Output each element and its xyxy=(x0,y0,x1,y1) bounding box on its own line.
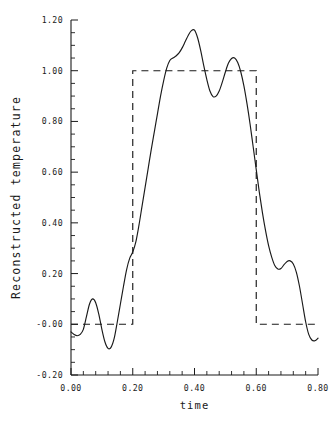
y-tick-label: -0.20 xyxy=(36,370,63,380)
y-tick-label: 0.80 xyxy=(42,116,63,126)
x-tick-label: 0.00 xyxy=(60,383,81,393)
y-tick-label: -0.00 xyxy=(36,319,63,329)
x-tick-label: 0.20 xyxy=(122,383,143,393)
y-tick-labels: -0.20-0.000.200.400.600.801.001.20 xyxy=(36,15,63,380)
axis-ticks-group xyxy=(71,20,318,375)
y-tick-label: 0.20 xyxy=(42,269,63,279)
x-tick-label: 0.60 xyxy=(246,383,267,393)
x-tick-label: 0.80 xyxy=(307,383,328,393)
series-original-square-pulse xyxy=(71,71,318,325)
x-tick-labels: 0.000.200.400.600.80 xyxy=(60,383,328,393)
x-axis-title: time xyxy=(180,399,210,411)
y-tick-label: 0.40 xyxy=(42,218,63,228)
x-tick-label: 0.40 xyxy=(184,383,205,393)
axis-lines-group xyxy=(71,20,318,375)
line-chart: 0.000.200.400.600.80 -0.20-0.000.200.400… xyxy=(0,0,335,421)
y-axis-title: Reconstructed temperature xyxy=(9,96,23,299)
series-reconstructed-temperature xyxy=(71,30,318,349)
y-tick-label: 1.20 xyxy=(42,15,63,25)
chart-figure: 0.000.200.400.600.80 -0.20-0.000.200.400… xyxy=(0,0,335,421)
y-tick-label: 0.60 xyxy=(42,167,63,177)
y-tick-label: 1.00 xyxy=(42,66,63,76)
